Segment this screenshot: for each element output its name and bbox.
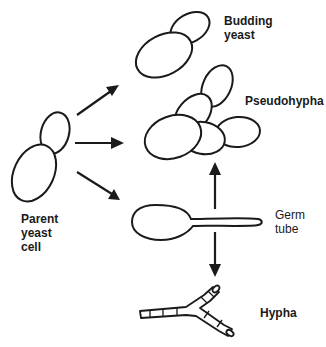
label-budding-yeast: Budding yeast bbox=[224, 14, 273, 42]
label-hypha-line1: Hypha bbox=[260, 306, 297, 320]
arrow-germ-tube-to-hypha bbox=[209, 232, 221, 277]
label-parent-yeast-cell: Parent yeast cell bbox=[21, 212, 58, 254]
arrow-germ-tube-to-pseudohypha bbox=[209, 162, 221, 209]
label-pseudohypha-line1: Pseudohypha bbox=[245, 94, 324, 108]
label-pseudohypha: Pseudohypha bbox=[245, 94, 324, 108]
arrow-parent-to-pseudohypha bbox=[75, 137, 124, 149]
label-germ-line2: tube bbox=[275, 222, 305, 236]
germ-tube-shape bbox=[132, 205, 262, 240]
label-parent-line3: cell bbox=[21, 240, 58, 254]
arrow-parent-to-germ-tube bbox=[77, 172, 120, 200]
diagram-canvas: Budding yeast Pseudohypha Parent yeast c… bbox=[0, 0, 326, 347]
label-hypha: Hypha bbox=[260, 306, 297, 320]
label-germ-line1: Germ bbox=[275, 208, 305, 222]
arrow-parent-to-budding bbox=[77, 85, 119, 115]
label-budding-line1: Budding bbox=[224, 14, 273, 28]
parent-yeast-shape bbox=[3, 109, 74, 209]
budding-yeast-shape bbox=[128, 5, 215, 86]
label-germ-tube: Germ tube bbox=[275, 208, 305, 236]
label-parent-line2: yeast bbox=[21, 226, 58, 240]
label-parent-line1: Parent bbox=[21, 212, 58, 226]
hypha-shape bbox=[140, 284, 235, 337]
label-budding-line2: yeast bbox=[224, 28, 273, 42]
